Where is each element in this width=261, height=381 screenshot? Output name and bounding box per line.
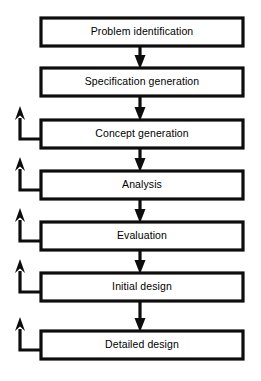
feedback-arrow-head [15, 106, 25, 120]
flow-arrow-5-to-6 [135, 250, 146, 274]
feedback-arrow-head [15, 157, 25, 171]
feedback-arrow-shaft [20, 271, 41, 292]
flow-arrow-4-to-5 [135, 199, 146, 223]
design-process-flowchart: Problem identificationSpecification gene… [0, 0, 261, 381]
feedback-arrows-layer [15, 106, 41, 350]
feedback-arrow-head [15, 208, 25, 222]
stage-box-5: Evaluation [41, 222, 243, 250]
stage-box-6: Initial design [41, 273, 243, 301]
feedback-arrow-from-stage-7 [15, 317, 41, 350]
stage-box-4: Analysis [41, 171, 243, 199]
stage-box-1: Problem identification [41, 18, 243, 46]
flowchart-canvas: Problem identificationSpecification gene… [0, 0, 261, 381]
stage-label: Problem identification [91, 25, 194, 37]
feedback-arrow-head [15, 317, 25, 331]
stage-box-2: Specification generation [41, 68, 243, 96]
stage-label: Specification generation [85, 75, 200, 87]
flow-arrow-2-to-3 [135, 96, 146, 121]
feedback-arrow-from-stage-6 [15, 259, 41, 292]
feedback-arrow-from-stage-5 [15, 208, 41, 241]
stage-label: Detailed design [105, 338, 179, 350]
stage-box-7: Detailed design [41, 331, 243, 359]
feedback-arrow-head [15, 259, 25, 273]
stage-label: Concept generation [95, 127, 189, 139]
feedback-arrow-shaft [20, 220, 41, 241]
stage-label: Analysis [122, 178, 162, 190]
stage-label: Initial design [112, 280, 172, 292]
stage-label: Evaluation [117, 229, 167, 241]
flow-arrow-3-to-4 [135, 148, 146, 172]
flow-arrow-1-to-2 [135, 46, 146, 69]
feedback-arrow-shaft [20, 118, 41, 139]
feedback-arrow-from-stage-4 [15, 157, 41, 190]
flow-arrow-6-to-7 [135, 301, 146, 332]
stage-box-3: Concept generation [41, 120, 243, 148]
feedback-arrow-shaft [20, 329, 41, 350]
stage-boxes-layer: Problem identificationSpecification gene… [41, 18, 243, 359]
feedback-arrow-shaft [20, 169, 41, 190]
feedback-arrow-from-stage-3 [15, 106, 41, 139]
